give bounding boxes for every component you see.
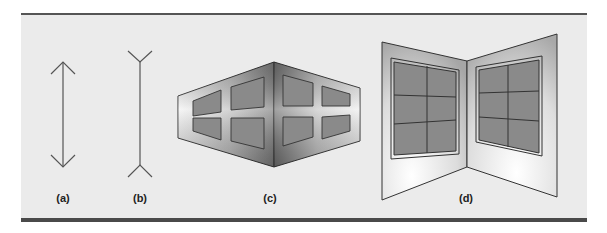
panel-c-outside-corner <box>178 62 360 167</box>
panel-d-inside-corner <box>382 34 557 200</box>
panel-b-label: (b) <box>133 192 147 204</box>
panel-a-arrow <box>51 62 75 167</box>
panel-d-label: (d) <box>459 192 473 204</box>
panel-b-fins <box>128 51 152 177</box>
illusion-drawings <box>0 0 607 233</box>
panel-a-label: (a) <box>56 192 69 204</box>
panel-c-label: (c) <box>263 192 276 204</box>
